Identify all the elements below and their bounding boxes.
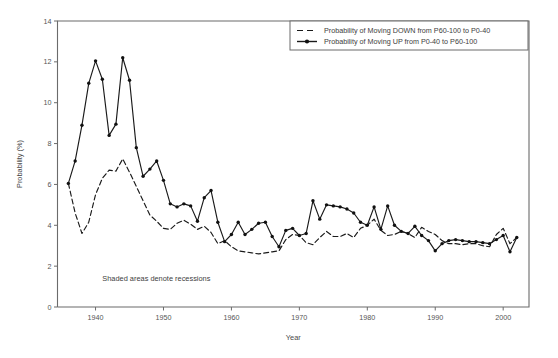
series-marker-up xyxy=(501,234,504,237)
series-marker-up xyxy=(284,229,287,232)
series-marker-up xyxy=(318,217,321,220)
x-tick-label: 1960 xyxy=(223,313,239,322)
series-marker-up xyxy=(447,239,450,242)
series-marker-up xyxy=(298,234,301,237)
series-marker-up xyxy=(223,240,226,243)
y-axis-title: Probability (%) xyxy=(15,140,24,188)
series-marker-up xyxy=(189,204,192,207)
series-marker-up xyxy=(135,146,138,149)
series-marker-up xyxy=(196,220,199,223)
series-marker-up xyxy=(379,228,382,231)
series-marker-up xyxy=(270,235,273,238)
x-tick-label: 2000 xyxy=(495,313,511,322)
series-marker-up xyxy=(413,225,416,228)
series-marker-up xyxy=(495,238,498,241)
series-marker-up xyxy=(87,82,90,85)
series-marker-up xyxy=(243,233,246,236)
series-marker-up xyxy=(107,134,110,137)
series-marker-up xyxy=(175,205,178,208)
x-axis-title: Year xyxy=(286,333,301,342)
series-marker-up xyxy=(352,211,355,214)
series-marker-up xyxy=(461,239,464,242)
series-marker-up xyxy=(148,167,151,170)
series-marker-up xyxy=(427,239,430,242)
y-tick-label: 12 xyxy=(44,57,52,66)
series-marker-up xyxy=(155,159,158,162)
series-marker-up xyxy=(209,189,212,192)
data-series xyxy=(67,56,519,254)
y-tick-label: 6 xyxy=(48,180,52,189)
series-marker-up xyxy=(481,241,484,244)
series-marker-up xyxy=(325,203,328,206)
series-marker-up xyxy=(400,230,403,233)
series-marker-up xyxy=(67,182,70,185)
y-tick-label: 8 xyxy=(48,139,52,148)
series-marker-up xyxy=(332,204,335,207)
series-marker-up xyxy=(311,199,314,202)
series-marker-up xyxy=(372,205,375,208)
recession-note: Shaded areas denote recessions xyxy=(102,274,210,283)
axes: 024681012141940195019601970198019902000Y… xyxy=(15,17,529,342)
chart-legend: Probability of Moving DOWN from P60-100 … xyxy=(290,21,528,50)
x-tick-label: 1940 xyxy=(88,313,104,322)
series-marker-up xyxy=(141,175,144,178)
series-marker-up xyxy=(291,227,294,230)
series-marker-up xyxy=(264,221,267,224)
series-marker-up xyxy=(277,245,280,248)
series-marker-up xyxy=(434,249,437,252)
series-marker-up xyxy=(169,202,172,205)
series-marker-up xyxy=(162,179,165,182)
series-marker-up xyxy=(121,56,124,59)
series-marker-up xyxy=(73,159,76,162)
series-marker-up xyxy=(420,234,423,237)
series-marker-up xyxy=(508,250,511,253)
legend-label-up: Probability of Moving UP from P0-40 to P… xyxy=(324,37,477,46)
y-tick-label: 14 xyxy=(44,17,52,26)
series-marker-up xyxy=(386,204,389,207)
series-marker-up xyxy=(250,228,253,231)
series-marker-up xyxy=(257,222,260,225)
series-marker-up xyxy=(366,224,369,227)
chart-figure: 024681012141940195019601970198019902000Y… xyxy=(0,0,558,358)
chart-annotations: Shaded areas denote recessions xyxy=(102,274,210,283)
legend-sample-marker xyxy=(305,39,309,43)
series-marker-up xyxy=(393,224,396,227)
series-marker-up xyxy=(515,236,518,239)
series-marker-up xyxy=(182,202,185,205)
series-marker-up xyxy=(203,196,206,199)
series-marker-up xyxy=(488,242,491,245)
series-marker-up xyxy=(359,221,362,224)
legend-label-down: Probability of Moving DOWN from P60-100 … xyxy=(324,26,490,35)
series-marker-up xyxy=(237,221,240,224)
series-marker-up xyxy=(406,232,409,235)
series-marker-up xyxy=(440,242,443,245)
series-marker-up xyxy=(80,123,83,126)
y-tick-label: 4 xyxy=(48,221,52,230)
series-line-up xyxy=(68,58,516,252)
x-tick-label: 1970 xyxy=(291,313,307,322)
series-marker-up xyxy=(230,233,233,236)
plot-frame xyxy=(58,21,530,307)
series-marker-up xyxy=(114,122,117,125)
series-marker-up xyxy=(474,240,477,243)
x-tick-label: 1980 xyxy=(359,313,375,322)
series-marker-up xyxy=(101,78,104,81)
series-marker-up xyxy=(338,205,341,208)
series-marker-up xyxy=(94,59,97,62)
chart-canvas: 024681012141940195019601970198019902000Y… xyxy=(0,0,558,358)
series-marker-up xyxy=(216,221,219,224)
y-tick-label: 2 xyxy=(48,262,52,271)
y-tick-label: 10 xyxy=(44,98,52,107)
y-tick-label: 0 xyxy=(48,303,52,312)
x-tick-label: 1990 xyxy=(427,313,443,322)
series-marker-up xyxy=(128,79,131,82)
x-tick-label: 1950 xyxy=(155,313,171,322)
series-marker-up xyxy=(454,238,457,241)
series-marker-up xyxy=(468,240,471,243)
series-marker-up xyxy=(304,232,307,235)
series-marker-up xyxy=(345,207,348,210)
